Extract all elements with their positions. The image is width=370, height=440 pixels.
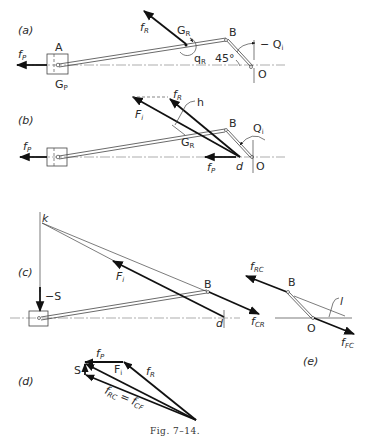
- moment-qi: [237, 43, 255, 52]
- panel-b-label: (b): [18, 114, 34, 127]
- h-label: h: [197, 96, 204, 109]
- svg-text:fP: fP: [23, 140, 32, 154]
- panel-e-label: (e): [303, 355, 318, 368]
- svg-text:fCR: fCR: [251, 315, 265, 329]
- pin-b: [225, 39, 228, 42]
- angle-label: 45°: [215, 52, 235, 65]
- panel-c-label: (c): [18, 266, 33, 279]
- svg-text:GP: GP: [55, 78, 68, 92]
- crank: [225, 130, 250, 157]
- point-a-label: A: [55, 41, 63, 54]
- pivot-o: [250, 66, 253, 69]
- svg-text:fP: fP: [96, 347, 105, 361]
- svg-text:O: O: [307, 322, 316, 335]
- connecting-rod: [41, 290, 207, 317]
- line-k-b: [42, 223, 208, 292]
- svg-text:fP: fP: [207, 161, 216, 175]
- panel-d: (d) S fP Fi fR fRC=fCF: [18, 347, 196, 420]
- panel-d-label: (d): [18, 375, 34, 388]
- svg-text:−S: −S: [45, 290, 61, 303]
- svg-text:fP: fP: [18, 48, 27, 62]
- svg-text:− Qi: − Qi: [260, 38, 283, 52]
- svg-text:d: d: [236, 160, 244, 173]
- figure-caption: Fig. 7–14.: [150, 426, 200, 436]
- mechanism-force-diagram: (a) fP A GP fR GR qR B O 45° − Qi (b): [0, 0, 370, 440]
- svg-text:qR: qR: [194, 52, 206, 66]
- panel-c: (c) k −S B Fi fCR d: [10, 212, 265, 330]
- center-gr: [185, 44, 188, 47]
- force-fcr-arrow: [209, 292, 259, 314]
- panel-b: (b) fP Fi fR h GR B d O fP Qi: [18, 88, 285, 175]
- svg-text:fR: fR: [146, 365, 155, 379]
- connecting-rod: [59, 129, 225, 156]
- svg-text:S: S: [74, 364, 81, 377]
- svg-text:Fi: Fi: [114, 363, 122, 377]
- svg-text:O: O: [258, 68, 267, 81]
- svg-text:l: l: [340, 295, 343, 308]
- svg-text:d: d: [216, 317, 224, 330]
- crank: [286, 292, 311, 318]
- svg-text:fRC: fRC: [250, 260, 264, 274]
- svg-text:B: B: [204, 278, 212, 291]
- svg-text:fR: fR: [140, 21, 149, 35]
- svg-text:O: O: [256, 160, 265, 173]
- panel-e: fRC B fFC O l (e): [246, 260, 354, 368]
- svg-text:k: k: [42, 212, 49, 225]
- svg-text:GR: GR: [181, 136, 195, 150]
- svg-text:Fi: Fi: [116, 270, 124, 284]
- force-fr-vector: [124, 362, 196, 420]
- svg-text:B: B: [229, 117, 237, 130]
- panel-a-label: (a): [18, 24, 33, 37]
- svg-text:GR: GR: [177, 24, 191, 38]
- force-ffc-arrow: [314, 318, 354, 334]
- force-frc-vector: [86, 375, 196, 420]
- svg-text:B: B: [288, 276, 296, 289]
- moment-qi: [240, 136, 265, 145]
- svg-text:fFC: fFC: [341, 336, 354, 350]
- svg-text:Fi: Fi: [135, 108, 143, 122]
- svg-text:fR: fR: [173, 88, 182, 102]
- panel-a: (a) fP A GP fR GR qR B O 45° − Qi: [17, 11, 285, 92]
- force-frc-arrow: [246, 276, 287, 292]
- svg-text:Qi: Qi: [253, 122, 264, 136]
- svg-text:B: B: [229, 26, 237, 39]
